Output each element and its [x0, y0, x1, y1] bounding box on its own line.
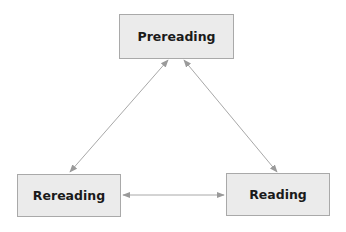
node-label: Prereading — [138, 29, 216, 44]
node-reading: Reading — [226, 173, 330, 216]
cycle-diagram: Prereading Rereading Reading — [0, 0, 346, 232]
node-label: Reading — [249, 187, 307, 202]
node-label: Rereading — [33, 188, 105, 203]
node-prereading: Prereading — [119, 14, 234, 59]
edge-prereading-rereading — [70, 60, 168, 172]
edge-prereading-reading — [184, 60, 277, 172]
node-rereading: Rereading — [17, 174, 121, 217]
